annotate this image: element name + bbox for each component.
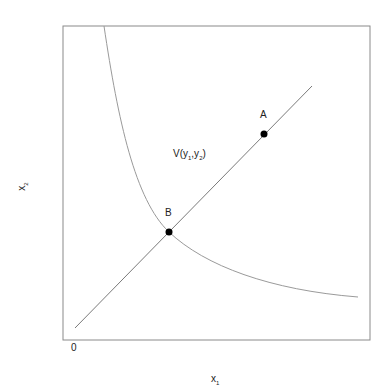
origin-label: 0 <box>71 342 77 353</box>
curve-label: V(y1,y2) <box>173 148 206 161</box>
x-axis-label: x1 <box>211 373 219 386</box>
point-b-label: B <box>165 207 172 218</box>
ray-line <box>75 86 312 328</box>
point-a-label: A <box>260 109 267 120</box>
diagram-canvas <box>0 0 392 390</box>
isoquant-curve <box>104 26 358 297</box>
point-a <box>261 131 268 138</box>
y-axis-label: x2 <box>16 182 29 190</box>
point-b <box>166 229 173 236</box>
